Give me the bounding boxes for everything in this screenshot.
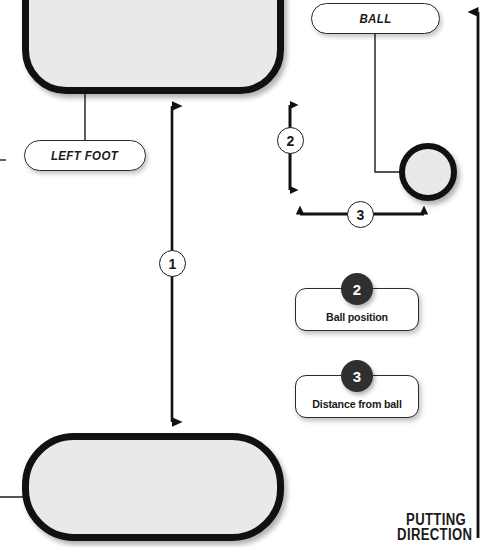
label-left-foot: LEFT FOOT: [24, 140, 146, 171]
legend-label-3: Distance from ball: [300, 398, 413, 410]
callout-number-2: 2: [277, 127, 304, 154]
legend-label-2: Ball position: [300, 311, 413, 323]
right-foot-shape: [22, 433, 284, 541]
label-ball-text: BALL: [359, 12, 391, 26]
legend-item-ball-position: 2 Ball position: [295, 288, 419, 331]
putting-direction-line1: PUTTING: [397, 512, 466, 527]
legend-badge-3: 3: [341, 360, 373, 392]
label-ball: BALL: [311, 3, 440, 34]
left-foot-shape: [22, 0, 284, 94]
diagram-canvas: LEFT FOOT BALL 1 2 3 2 Ball position 3 D…: [0, 0, 493, 547]
label-left-foot-text: LEFT FOOT: [51, 149, 118, 163]
legend-badge-2: 2: [341, 273, 373, 305]
callout-number-1: 1: [159, 250, 186, 277]
putting-direction-line2: DIRECTION: [397, 527, 466, 542]
golf-ball-shape: [399, 143, 457, 201]
callout-number-3: 3: [347, 201, 374, 228]
putting-direction-label: PUTTING DIRECTION: [382, 512, 466, 542]
legend-item-distance-from-ball: 3 Distance from ball: [295, 375, 419, 418]
